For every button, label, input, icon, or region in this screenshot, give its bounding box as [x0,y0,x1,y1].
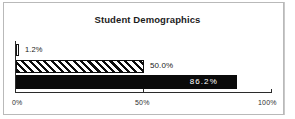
bar-series-2[interactable] [16,60,144,73]
x-tick-label-50: 50% [135,99,150,106]
x-tick-label-100: 100% [258,99,277,106]
bar-value-label-2: 50.0% [150,61,173,70]
bar-value-label-3: 86.2% [190,77,218,86]
x-tick-0 [15,89,16,93]
chart-figure: Student Demographics 0% 50% 100% 1.2% 50… [0,0,295,119]
x-tick-100 [271,89,272,93]
bar-series-1[interactable] [16,44,19,56]
x-tick-label-0: 0% [12,99,23,106]
x-tick-50 [143,89,144,93]
bar-value-label-1: 1.2% [25,45,43,54]
chart-title: Student Demographics [0,14,295,25]
